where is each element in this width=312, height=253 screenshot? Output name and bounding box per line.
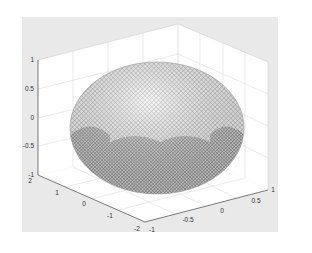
svg-text:0: 0 (82, 200, 86, 207)
svg-text:1: 1 (30, 56, 34, 63)
figure-canvas: 1 0.5 0 -0.5 -1 2 1 0 -1 -2 -1 -0.5 0 0.… (0, 0, 312, 253)
svg-text:2: 2 (28, 177, 32, 184)
svg-text:0: 0 (30, 114, 34, 121)
svg-text:0: 0 (220, 207, 224, 214)
svg-text:-1: -1 (107, 212, 113, 219)
svg-text:0.5: 0.5 (251, 197, 260, 204)
svg-text:1: 1 (271, 186, 275, 193)
svg-text:-0.5: -0.5 (23, 142, 35, 149)
svg-text:-2: -2 (134, 225, 140, 232)
svg-text:-0.5: -0.5 (182, 216, 194, 223)
svg-text:1: 1 (55, 189, 59, 196)
svg-text:-1: -1 (149, 226, 155, 233)
svg-text:0.5: 0.5 (25, 85, 34, 92)
